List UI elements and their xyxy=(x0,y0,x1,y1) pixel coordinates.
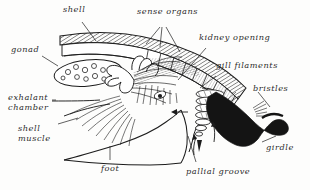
shell-muscle-structure xyxy=(52,96,135,146)
label-girdle: girdle xyxy=(266,143,294,153)
label-shell-muscle-line2: muscle xyxy=(18,133,51,143)
label-gill-filaments: gill filaments xyxy=(216,61,278,71)
girdle-structure xyxy=(207,92,289,146)
label-exhalant-chamber: exhalant chamber xyxy=(8,93,60,112)
label-pallial-groove: pallial groove xyxy=(186,167,250,177)
foot-structure xyxy=(64,110,187,165)
label-gonad: gonad xyxy=(11,45,39,55)
label-shell-muscle: shell muscle xyxy=(18,124,64,143)
label-kidney-opening: kidney opening xyxy=(199,33,270,43)
label-bristles: bristles xyxy=(253,84,288,94)
chiton-anatomy-figure: shell sense organs kidney opening gill f… xyxy=(0,0,310,190)
label-shell-muscle-line1: shell xyxy=(18,123,40,133)
label-foot: foot xyxy=(101,164,119,174)
label-shell: shell xyxy=(63,5,85,15)
muscle-fibers xyxy=(70,96,135,146)
label-sense-organs: sense organs xyxy=(137,7,198,17)
label-exhalant-line2: chamber xyxy=(8,102,48,112)
label-exhalant-line1: exhalant xyxy=(8,92,48,102)
radula-tip xyxy=(197,140,202,152)
leader-gonad xyxy=(42,56,58,66)
gill-and-palp-structure xyxy=(105,56,200,105)
